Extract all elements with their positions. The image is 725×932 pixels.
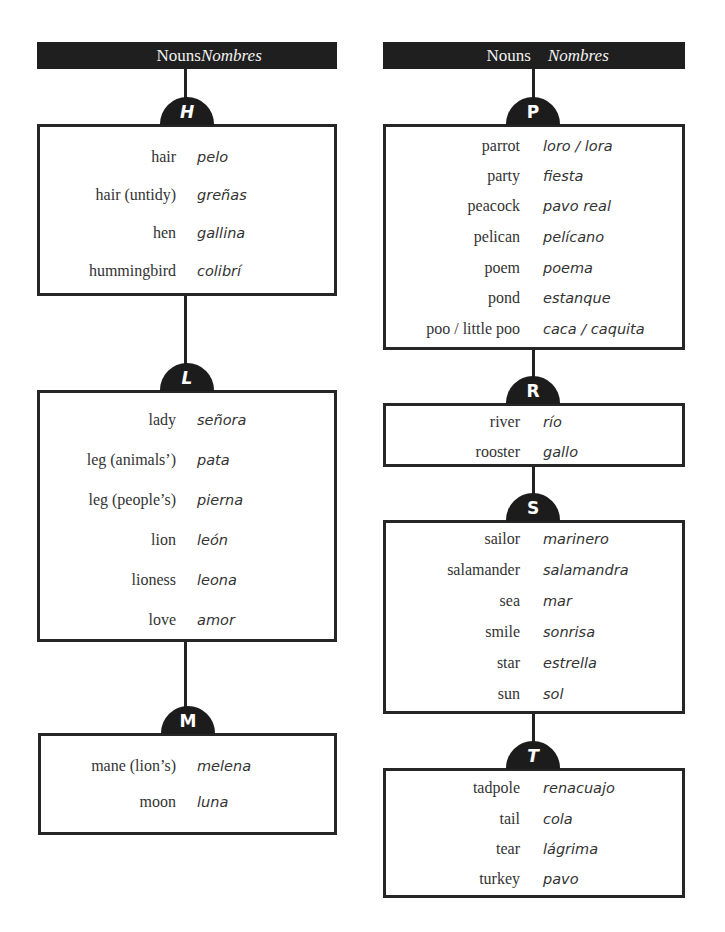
list-item: sailormarinero [386,528,682,550]
list-item: partyfiesta [386,165,682,187]
list-item: hairpelo [40,146,334,168]
section-r: riverrío roostergallo [383,403,685,467]
list-item: salamandersalamandra [386,559,682,581]
connector-line [532,69,535,99]
letter-tab-s: S [506,493,560,521]
list-item: sunsol [386,683,682,705]
right-header: Nouns Nombres [383,42,685,69]
list-item: tailcola [386,808,682,830]
list-item: seamar [386,590,682,612]
connector-line [532,466,535,496]
list-item: hummingbirdcolibrí [40,260,334,282]
letter-tab-m: M [161,706,215,734]
list-item: pondestanque [386,287,682,309]
header-english: Nouns [157,42,201,69]
left-header: Nouns Nombres [37,42,337,69]
connector-line [184,641,187,709]
list-item: poo / little poocaca / caquita [386,318,682,340]
connector-line [184,69,187,99]
list-item: riverrío [386,411,682,433]
connector-line [184,295,187,365]
list-item: mane (lion’s)melena [41,755,334,777]
list-item: leg (people’s)pierna [40,489,334,511]
section-s: sailormarinero salamandersalamandra seam… [383,520,685,714]
list-item: peacockpavo real [386,195,682,217]
list-item: turkeypavo [386,868,682,890]
letter-tab-l: L [160,363,214,391]
list-item: lionleón [40,529,334,551]
connector-line [532,713,535,743]
list-item: pelicanpelícano [386,226,682,248]
list-item: tadpolerenacuajo [386,777,682,799]
section-l: ladyseñora leg (animals’)pata leg (peopl… [37,390,337,642]
letter-tab-t: T [506,741,560,769]
list-item: tearlágrima [386,838,682,860]
header-spanish: Nombres [201,42,262,69]
list-item: smilesonrisa [386,621,682,643]
section-p: parrotloro / lora partyfiesta peacockpav… [383,124,685,350]
list-item: hair (untidy)greñas [40,184,334,206]
list-item: starestrella [386,652,682,674]
header-spanish: Nombres [548,42,609,69]
list-item: moonluna [41,791,334,813]
list-item: parrotloro / lora [386,135,682,157]
list-item: ladyseñora [40,409,334,431]
letter-tab-h: H [160,97,214,125]
letter-tab-p: P [506,97,560,125]
header-english: Nouns [487,42,531,69]
letter-tab-r: R [506,376,560,404]
list-item: hengallina [40,222,334,244]
list-item: roostergallo [386,441,682,463]
section-m: mane (lion’s)melena moonluna [38,733,337,835]
list-item: poempoema [386,257,682,279]
connector-line [532,349,535,379]
section-h: hairpelo hair (untidy)greñas hengallina … [37,124,337,296]
list-item: leg (animals’)pata [40,449,334,471]
section-t: tadpolerenacuajo tailcola tearlágrima tu… [383,768,685,898]
list-item: lionessleona [40,569,334,591]
list-item: loveamor [40,609,334,631]
